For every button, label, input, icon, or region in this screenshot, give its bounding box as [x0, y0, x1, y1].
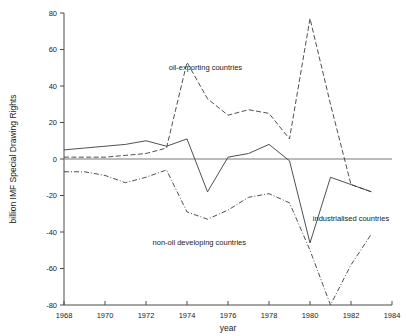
y-tick-label: -20	[46, 191, 57, 200]
series-line-oil-exporting-countries	[64, 18, 372, 191]
x-tick-label: 1970	[97, 311, 114, 320]
x-axis-title: year	[220, 323, 237, 333]
x-tick-label: 1974	[179, 311, 196, 320]
series-annotations-group: industrialised countriesoil-exporting co…	[153, 63, 390, 247]
y-tick-label: 80	[49, 9, 57, 18]
line-chart: -80-60-40-20020406080 196819701972197419…	[0, 0, 406, 336]
y-tick-label: 20	[49, 118, 57, 127]
series-line-industrialised-countries	[64, 139, 372, 243]
y-tick-label: -80	[46, 301, 57, 310]
y-axis-ticks: -80-60-40-20020406080	[46, 9, 64, 310]
y-tick-label: -40	[46, 228, 57, 237]
x-tick-label: 1968	[56, 311, 73, 320]
y-tick-label: -60	[46, 264, 57, 273]
x-tick-label: 1978	[261, 311, 278, 320]
series-paths-group	[64, 18, 372, 305]
series-annotation-industrialised-countries: industrialised countries	[313, 214, 390, 223]
x-tick-label: 1980	[302, 311, 319, 320]
x-tick-label: 1972	[138, 311, 155, 320]
x-tick-label: 1976	[220, 311, 237, 320]
chart-container: -80-60-40-20020406080 196819701972197419…	[0, 0, 406, 336]
y-tick-label: 40	[49, 82, 57, 91]
series-annotation-non-oil-developing-countries: non-oil developing countries	[153, 238, 247, 247]
series-annotation-oil-exporting-countries: oil-exporting countries	[169, 63, 243, 72]
y-tick-label: 60	[49, 45, 57, 54]
y-axis-title: billion IMF Special Drawing Rights	[8, 95, 18, 224]
x-tick-label: 1984	[384, 311, 401, 320]
x-axis-ticks: 196819701972197419761978198019821984	[56, 301, 401, 320]
x-tick-label: 1982	[343, 311, 360, 320]
y-tick-label: 0	[53, 155, 57, 164]
